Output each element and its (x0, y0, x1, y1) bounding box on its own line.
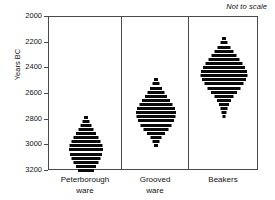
swarm-row-bar (70, 144, 103, 147)
swarm-row-bar (201, 74, 248, 77)
y-tick-label: 2600 (8, 89, 42, 97)
swarm-row-bar (69, 148, 103, 151)
swarm-row-bar (218, 46, 231, 49)
swarm-row-bar (201, 70, 247, 73)
swarm-row-bar (147, 132, 165, 135)
swarm-row-bar (205, 82, 244, 85)
swarm-row-bar (219, 103, 229, 106)
swarm-row-bar (150, 87, 162, 90)
swarm-row-bar (154, 144, 158, 147)
swarm-row-bar (208, 87, 241, 90)
swarm-row-bar (81, 124, 92, 127)
swarm-row-bar (136, 111, 176, 114)
swarm-row-bar (209, 58, 240, 61)
swarm-row-bar (206, 62, 243, 65)
swarm-row-bar (83, 120, 90, 123)
swarm-row-bar (72, 157, 101, 160)
swarm-row-bar (138, 119, 174, 122)
y-tick-label: 2400 (8, 63, 42, 71)
swarm-row-bar (203, 66, 245, 69)
category-label-line2: ware (110, 186, 200, 197)
swarm-row-bar (148, 91, 165, 94)
swarm-row-bar (211, 91, 237, 94)
category-label-line1: Beakers (178, 175, 268, 186)
swarm-row-bar (202, 78, 246, 81)
y-tick-label: 3200 (8, 166, 42, 174)
swarm-row-bar (137, 107, 175, 110)
swarm-row-bar (72, 140, 101, 143)
swarm-row-bar (221, 107, 228, 110)
swarm-row-bar (221, 41, 228, 44)
swarm-row-bar (76, 165, 96, 168)
swarm-row-bar (70, 153, 102, 156)
swarm-row-bar (212, 54, 237, 57)
y-tick-label: 2800 (8, 115, 42, 123)
swarm-row-bar (153, 140, 160, 143)
swarm-row-bar (84, 116, 88, 119)
swarm-row-bar (222, 37, 226, 40)
swarm-row-bar (74, 161, 99, 164)
swarm-row-bar (154, 78, 158, 81)
swarm-row-bar (137, 115, 176, 118)
chart-root: Not to scale Years BC 200022002400260028… (0, 0, 275, 200)
y-tick-mark (44, 170, 48, 171)
swarm-row-bar (217, 99, 231, 102)
swarm-row-bar (153, 82, 160, 85)
swarm-row-bar (76, 132, 96, 135)
y-tick-label: 2000 (8, 12, 42, 20)
category-divider-2 (188, 17, 189, 169)
swarm-row-bar (215, 50, 234, 53)
not-to-scale-annotation: Not to scale (226, 2, 267, 11)
swarm-row-bar (79, 128, 94, 131)
swarm-row-bar (141, 124, 172, 127)
swarm-row-bar (78, 169, 94, 172)
swarm-row-bar (215, 95, 234, 98)
y-tick-label: 3000 (8, 140, 42, 148)
swarm-row-bar (74, 136, 99, 139)
swarm-row-bar (145, 95, 167, 98)
swarm-row-bar (222, 111, 227, 114)
swarm-row-bar (142, 99, 170, 102)
y-tick-label: 2200 (8, 38, 42, 46)
category-label-3: Beakers (178, 175, 268, 186)
swarm-row-bar (223, 115, 226, 118)
swarm-row-bar (151, 136, 162, 139)
plot-area (48, 16, 258, 170)
swarm-row-bar (144, 128, 169, 131)
category-divider-1 (121, 17, 122, 169)
swarm-row-bar (140, 103, 173, 106)
